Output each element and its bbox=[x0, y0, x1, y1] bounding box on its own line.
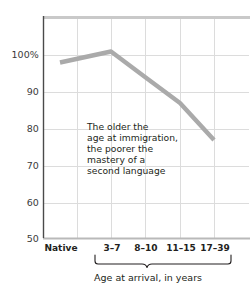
category-bracket bbox=[95, 255, 231, 268]
y-tick-50: 50 bbox=[27, 234, 39, 244]
y-tick-60: 60 bbox=[27, 198, 39, 208]
x-axis-group-label: Age at arrival, in years bbox=[44, 272, 252, 283]
y-axis-tick-labels: 100% 90 80 70 60 50 bbox=[0, 0, 39, 293]
chart-figure: 100% 90 80 70 60 50 Native 3–7 8–10 11–1… bbox=[0, 0, 252, 293]
x-tick-native: Native bbox=[40, 243, 82, 253]
y-tick-70: 70 bbox=[27, 161, 39, 171]
x-tick-17-39: 17–39 bbox=[194, 243, 236, 253]
y-tick-80: 80 bbox=[27, 124, 39, 134]
y-tick-100: 100% bbox=[11, 50, 39, 60]
y-tick-90: 90 bbox=[27, 87, 39, 97]
chart-annotation-text: The older the age at immigration, the po… bbox=[87, 121, 191, 176]
